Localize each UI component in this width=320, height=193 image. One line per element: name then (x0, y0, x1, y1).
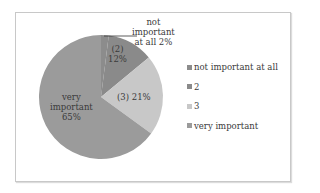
legend-swatch (187, 65, 192, 70)
legend-label: very important (194, 121, 258, 131)
label-not-important: not important at all 2% (132, 17, 175, 47)
label-line: at all 2% (132, 37, 175, 47)
label-very-important: very important 65% (50, 92, 93, 122)
legend-swatch (187, 84, 192, 89)
label-line: not (132, 17, 175, 27)
label-line: (2) (108, 44, 127, 54)
label-slice-2: (2) 12% (108, 44, 127, 64)
legend-item-not-important: not important at all (187, 62, 278, 72)
legend-item-very-important: very important (187, 121, 278, 131)
legend-item-2: 2 (187, 82, 278, 92)
legend-label: not important at all (194, 62, 278, 72)
legend-swatch (187, 104, 192, 109)
legend-label: 2 (194, 82, 199, 92)
legend-label: 3 (194, 101, 199, 111)
label-line: important (50, 102, 93, 112)
chart-legend: not important at all 2 3 very important (187, 62, 278, 140)
legend-swatch (187, 123, 192, 128)
label-line: important (132, 27, 175, 37)
label-line: very (50, 92, 93, 102)
label-line: 65% (50, 112, 93, 122)
legend-item-3: 3 (187, 101, 278, 111)
label-line: 12% (108, 54, 127, 64)
label-slice-3: (3) 21% (117, 92, 151, 102)
